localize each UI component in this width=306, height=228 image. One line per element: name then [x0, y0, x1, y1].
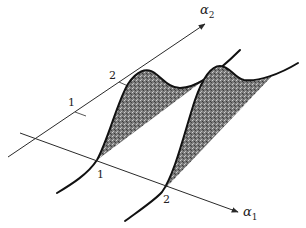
alpha2-tick-label-1: 1 [68, 96, 75, 109]
curve-2-shade [162, 66, 272, 192]
curve-1-position-label: 1 [97, 168, 104, 181]
distribution-diagram: 1 2 α2 1 2 α1 [0, 0, 306, 228]
curve-2-position-label: 2 [163, 193, 170, 206]
alpha2-tick-label-2: 2 [109, 69, 116, 82]
alpha1-axis-label: α1 [243, 204, 258, 222]
alpha1-axis: α1 [20, 133, 258, 222]
alpha2-tick-1 [75, 112, 86, 116]
alpha2-axis-label: α2 [200, 2, 215, 20]
